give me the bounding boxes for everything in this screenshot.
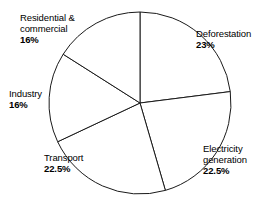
slice-label-name-line1: Electricity — [203, 143, 247, 154]
slice-label-industry: Industry 16% — [9, 88, 42, 110]
pie-chart: Deforestation 23% Electricity generation… — [0, 0, 272, 202]
pie-slice-deforestation — [140, 12, 230, 103]
slice-label-value: 22.5% — [44, 163, 83, 174]
slice-label-name: Transport — [44, 152, 83, 163]
slice-label-name-line1: Residential & — [20, 12, 75, 23]
slice-label-value: 16% — [9, 99, 42, 110]
slice-label-value: 16% — [20, 34, 75, 45]
slice-label-value: 22.5% — [203, 165, 247, 176]
slice-label-name-line2: commercial — [20, 23, 75, 34]
slice-label-name: Industry — [9, 88, 42, 99]
slice-label-name-line2: generation — [203, 154, 247, 165]
slice-label-name: Deforestation — [196, 28, 251, 39]
slice-label-deforestation: Deforestation 23% — [196, 28, 251, 50]
slice-label-transport: Transport 22.5% — [44, 152, 83, 174]
slice-label-residential-commercial: Residential & commercial 16% — [20, 12, 75, 45]
slice-label-electricity-generation: Electricity generation 22.5% — [203, 143, 247, 176]
slice-label-value: 23% — [196, 39, 251, 50]
